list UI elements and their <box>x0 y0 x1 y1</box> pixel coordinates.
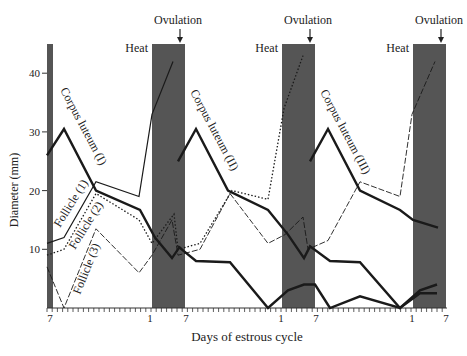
x-tick-label: 7 <box>313 312 319 324</box>
arrow-head-icon <box>438 37 444 43</box>
x-tick-label: 1 <box>147 312 153 324</box>
ovulation-label: Ovulation <box>154 13 202 27</box>
x-tick-label: 1 <box>278 312 284 324</box>
y-tick-label: 20 <box>29 185 41 197</box>
annotations: Corpus luteum (I)Corpus luteum (II)Corpu… <box>51 85 374 296</box>
ovulation-label: Ovulation <box>284 13 332 27</box>
x-tick-label: 7 <box>47 312 53 324</box>
x-tick-label: 7 <box>183 312 189 324</box>
estrous-cycle-chart: HeatHeatHeatOvulationOvulationOvulation … <box>0 0 467 356</box>
heat-band <box>413 44 446 308</box>
heat-band <box>282 44 315 308</box>
x-axis-label: Days of estrous cycle <box>191 329 303 344</box>
heat-label: Heat <box>386 41 409 55</box>
y-tick-label: 40 <box>29 67 41 79</box>
x-tick-label: 7 <box>443 312 449 324</box>
y-tick-label: 10 <box>29 243 41 255</box>
series-annotation: Corpus luteum (I) <box>57 85 110 168</box>
heat-band <box>152 44 185 308</box>
y-axis-label: Diameter (mm) <box>7 153 21 227</box>
arrow-head-icon <box>177 37 183 43</box>
x-tick-label: 1 <box>409 312 415 324</box>
ovulation-label: Ovulation <box>415 13 463 27</box>
heat-label: Heat <box>125 41 148 55</box>
y-tick-label: 30 <box>29 126 41 138</box>
heat-label: Heat <box>255 41 278 55</box>
series-lines <box>47 56 438 308</box>
arrow-head-icon <box>307 37 313 43</box>
